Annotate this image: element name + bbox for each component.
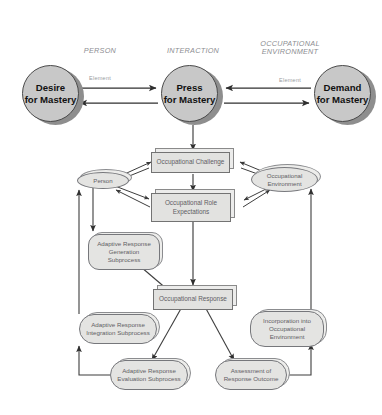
node-occupational-response-label: Occupational Response <box>159 295 227 304</box>
node-incorporation-into-occupational-environment-label: Incorporation into Occupational Environm… <box>263 317 311 342</box>
node-adaptive-response-integration-subprocess-label: Adaptive Response Integration Subprocess <box>86 321 150 337</box>
node-demand-for-mastery-label: Demand for Mastery <box>317 82 369 105</box>
node-occupational-environment-label: Occupational Environment <box>267 172 303 188</box>
node-occupational-challenge-label: Occupational Challenge <box>157 158 225 167</box>
node-occupational-environment[interactable]: Occupational Environment <box>251 167 318 192</box>
node-assessment-of-response-outcome-label: Assessment of Response Outcome <box>224 367 279 383</box>
node-adaptive-response-evaluation-subprocess[interactable]: Adaptive Response Evaluation Subprocess <box>110 360 188 390</box>
node-demand-for-mastery[interactable]: Demand for Mastery <box>314 65 371 122</box>
node-adaptive-response-generation-subprocess[interactable]: Adaptive Response Generation Subprocess <box>88 234 160 270</box>
node-person-label: Person <box>93 177 112 185</box>
node-assessment-of-response-outcome[interactable]: Assessment of Response Outcome <box>215 360 287 390</box>
node-desire-for-mastery-label: Desire for Mastery <box>25 82 77 105</box>
node-person[interactable]: Person <box>77 172 129 189</box>
node-desire-for-mastery[interactable]: Desire for Mastery <box>22 65 79 122</box>
node-occupational-response[interactable]: Occupational Response <box>153 289 233 310</box>
node-occupational-role-expectations[interactable]: Occupational Role Expectations <box>151 193 231 222</box>
node-adaptive-response-generation-subprocess-label: Adaptive Response Generation Subprocess <box>97 240 151 265</box>
node-adaptive-response-integration-subprocess[interactable]: Adaptive Response Integration Subprocess <box>79 314 157 344</box>
node-incorporation-into-occupational-environment[interactable]: Incorporation into Occupational Environm… <box>250 311 324 347</box>
node-press-for-mastery-label: Press for Mastery <box>164 82 216 105</box>
node-occupational-role-expectations-label: Occupational Role Expectations <box>165 199 217 216</box>
node-occupational-challenge[interactable]: Occupational Challenge <box>151 152 230 173</box>
diagram-canvas: PERSON Element INTERACTION Element OCCUP… <box>0 0 382 415</box>
node-press-for-mastery[interactable]: Press for Mastery <box>161 65 218 122</box>
column-header-interaction-title: INTERACTION <box>147 47 239 56</box>
column-header-occupational-environment-title: OCCUPATIONAL ENVIRONMENT <box>238 40 342 57</box>
node-adaptive-response-evaluation-subprocess-label: Adaptive Response Evaluation Subprocess <box>117 367 180 383</box>
column-header-person-title: PERSON <box>54 47 146 56</box>
